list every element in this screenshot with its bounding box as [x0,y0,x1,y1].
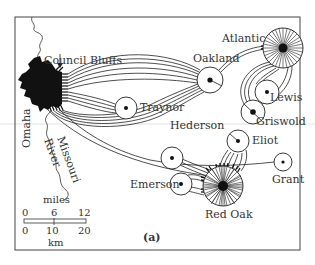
label-omaha: Omaha [20,108,33,148]
label-hederson: Hederson [170,119,224,132]
label-eliot: Eliot [252,134,279,147]
label-atlantic: Atlantic [221,32,265,45]
label-grant: Grant [272,173,305,186]
scale-mile-12: 12 [78,207,91,218]
label-oakland: Oakland [193,52,239,65]
flows-council-bluffs-traynor [68,92,116,113]
town-atlantic[interactable] [263,28,303,68]
scale-mile-6: 6 [51,207,57,218]
label-traynor: Traynor [140,101,185,114]
label-griswold: Griswold [256,115,306,128]
scale-mile-0: 0 [22,207,28,218]
panel-label: (a) [143,231,161,244]
town-traynor[interactable] [115,97,137,119]
town-red-oak[interactable] [203,166,243,206]
town-oakland[interactable] [197,67,223,93]
scale-unit-km: km [48,237,64,248]
label-lewis: Lewis [270,91,303,104]
town-grant[interactable] [274,153,292,171]
label-red-oak: Red Oak [205,208,253,221]
scale-km-0: 0 [22,225,28,236]
flow-map: Council Bluffs Oakland Atlantic Lewis Gr… [0,0,315,265]
town-hederson[interactable] [161,147,183,169]
scale-unit-miles: miles [43,194,70,205]
scale-km-10: 10 [46,225,59,236]
label-council-bluffs: Council Bluffs [44,54,122,67]
label-emerson: Emerson [130,178,180,191]
town-eliot[interactable] [227,130,249,152]
missouri-river-upper [32,17,43,58]
scale-bar: miles 0 6 12 0 10 20 km [22,194,91,248]
scale-km-20: 20 [78,225,91,236]
